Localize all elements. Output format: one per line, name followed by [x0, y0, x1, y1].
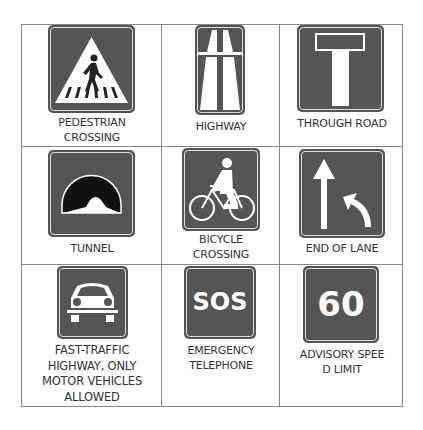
speed-60-icon: 60 [303, 266, 379, 343]
label-line: BICYCLE [162, 232, 280, 247]
label-line: ALLOWED [22, 390, 162, 406]
label-line: HIGHWAY [162, 119, 280, 134]
label-line: D LIMIT [280, 362, 404, 377]
sign-label: BICYCLE CROSSING [162, 232, 280, 262]
sign-label: FAST-TRAFFIC HIGHWAY, ONLY MOTOR VEHICLE… [22, 343, 162, 405]
sign-cell-fast-traffic-highway: FAST-TRAFFIC HIGHWAY, ONLY MOTOR VEHICLE… [22, 265, 162, 407]
sign-cell-through-road: THROUGH ROAD [280, 25, 404, 147]
label-line: THROUGH ROAD [280, 116, 404, 131]
sign-label: PEDESTRIAN CROSSING [22, 115, 162, 145]
sign-label: TUNNEL [22, 241, 162, 256]
pedestrian-crossing-icon [48, 25, 135, 113]
bicycle-icon [182, 148, 260, 231]
label-line: FAST-TRAFFIC [22, 343, 162, 359]
car-icon [57, 266, 128, 339]
svg-text:60: 60 [317, 284, 364, 324]
svg-text:SOS: SOS [193, 288, 248, 316]
sign-cell-pedestrian-crossing: PEDESTRIAN CROSSING [22, 25, 162, 147]
label-line: TELEPHONE [162, 358, 280, 373]
sign-cell-tunnel: TUNNEL [22, 147, 162, 265]
sign-label: THROUGH ROAD [280, 116, 404, 131]
sign-label: HIGHWAY [162, 119, 280, 134]
sign-label: EMERGENCY TELEPHONE [162, 343, 280, 373]
label-line: CROSSING [162, 247, 280, 262]
label-line: CROSSING [22, 130, 162, 145]
label-line: EMERGENCY [162, 343, 280, 358]
label-line: HIGHWAY, ONLY [22, 359, 162, 375]
through-road-icon [297, 25, 384, 112]
label-line: TUNNEL [22, 241, 162, 256]
label-line: PEDESTRIAN [22, 115, 162, 130]
label-line: ADVISORY SPEE [280, 347, 404, 362]
sos-icon: SOS [184, 266, 256, 339]
sign-cell-advisory-speed-limit: 60 ADVISORY SPEE D LIMIT [280, 265, 404, 407]
sign-cell-highway: HIGHWAY [162, 25, 280, 147]
label-line: MOTOR VEHICLES [22, 374, 162, 390]
tunnel-icon [48, 150, 135, 237]
label-line: END OF LANE [280, 241, 404, 256]
sign-cell-emergency-telephone: SOS EMERGENCY TELEPHONE [162, 265, 280, 407]
sign-label: ADVISORY SPEE D LIMIT [280, 347, 404, 377]
sign-cell-end-of-lane: END OF LANE [280, 147, 404, 265]
sign-cell-bicycle-crossing: BICYCLE CROSSING [162, 147, 280, 265]
sign-label: END OF LANE [280, 241, 404, 256]
end-of-lane-icon [299, 149, 385, 238]
highway-icon [195, 25, 245, 115]
road-signs-table: PEDESTRIAN CROSSING HIGHWAY THROUGH R [21, 24, 403, 407]
